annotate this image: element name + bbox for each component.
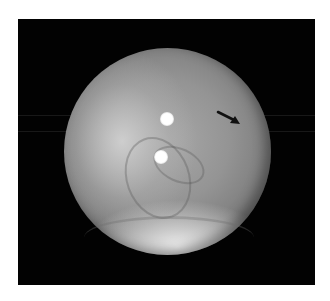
- reflection-dot-upper: [160, 112, 174, 126]
- lower-band: [84, 216, 254, 259]
- image-frame: [18, 19, 315, 285]
- reflection-dot-lower: [154, 150, 168, 164]
- arrow-icon: [216, 109, 242, 127]
- sphere-image: [64, 48, 271, 255]
